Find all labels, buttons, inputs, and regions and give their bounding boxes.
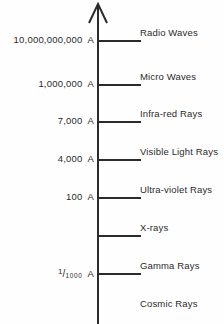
scale-label-gamma: 1/1000A [58, 267, 94, 281]
band-label-cosmic-rays: Cosmic Rays [140, 298, 198, 309]
tick-mark [98, 235, 141, 237]
scale-label-ultraviolet: 100A [66, 192, 94, 202]
axis-arrow-up-icon [86, 2, 110, 28]
fraction-denominator: 1000 [66, 272, 83, 279]
scale-label-infrared: 7,000A [58, 116, 94, 126]
band-label-visible-light-rays: Visible Light Rays [140, 146, 218, 157]
spectrum-axis-line [97, 20, 99, 324]
spectrum-diagram: 10,000,000,000A 1,000,000A 7,000A 4,000A… [0, 0, 224, 324]
band-label-micro-waves: Micro Waves [140, 71, 196, 82]
tick-mark [98, 121, 141, 123]
tick-mark [98, 40, 141, 42]
scale-value: 100 [66, 191, 82, 202]
scale-unit: A [87, 78, 94, 89]
fraction-value: 1/1000 [58, 267, 83, 281]
scale-unit: A [87, 191, 94, 202]
scale-unit: A [87, 115, 94, 126]
scale-value: 4,000 [58, 153, 83, 164]
band-label-infra-red-rays: Infra-red Rays [140, 108, 202, 119]
scale-unit: A [87, 34, 94, 45]
scale-label-visible: 4,000A [58, 154, 94, 164]
scale-label-micro: 1,000,000A [38, 79, 94, 89]
tick-mark [98, 159, 141, 161]
band-label-radio-waves: Radio Waves [140, 27, 198, 38]
scale-unit: A [87, 268, 94, 279]
tick-mark [98, 197, 141, 199]
scale-unit: A [87, 153, 94, 164]
band-label-ultra-violet-rays: Ultra-violet Rays [140, 184, 212, 195]
band-label-gamma-rays: Gamma Rays [140, 260, 200, 271]
tick-mark [98, 273, 141, 275]
scale-value: 10,000,000,000 [14, 34, 83, 45]
scale-label-radio: 10,000,000,000A [14, 35, 94, 45]
band-label-x-rays: X-rays [140, 222, 168, 233]
scale-value: 1,000,000 [38, 78, 82, 89]
tick-mark [98, 84, 141, 86]
scale-value: 7,000 [58, 115, 83, 126]
